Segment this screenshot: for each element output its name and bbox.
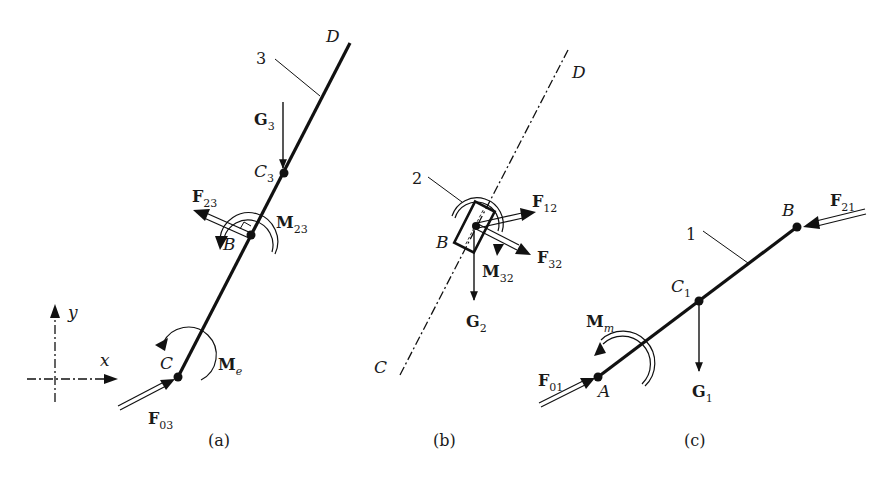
moment-M23-label: M23 [276,213,308,236]
y-axis-arrow-icon [50,304,60,318]
point-B-label: B [781,200,795,220]
caption-b: (b) [433,431,456,450]
point-D-label: D [571,62,586,82]
moment-M32-label: M32 [482,262,514,285]
point-C-label: C [374,357,387,377]
force-F32-label: F32 [537,248,562,271]
right-angle-mark [240,222,251,229]
caption-a: (a) [208,431,230,450]
point-C [174,373,183,382]
force-G2-label: G2 [466,312,487,335]
moment-Me-label: Me [218,355,243,378]
point-D-label: D [325,26,340,46]
leader-line-3 [275,59,320,96]
y-axis-label: y [67,302,78,322]
link-number-1: 1 [686,225,696,244]
x-axis-arrow-icon [104,374,118,384]
force-F23-label: F23 [192,187,217,210]
point-C3 [280,169,289,178]
coordinate-axes: y x [27,302,118,402]
point-C-label: C [160,353,173,373]
point-C3-label: C3 [254,161,274,185]
force-G1-label: G1 [692,382,713,405]
panel-a: y x D 3 G3 C3 B F23 M23 [27,26,350,450]
link-number-3: 3 [256,49,266,68]
force-F21-label: F21 [830,191,855,214]
point-A-label: A [596,381,610,401]
x-axis-label: x [100,350,110,370]
force-F03-label: F03 [148,409,173,432]
force-F32-arrow [476,224,531,255]
force-F12-label: F12 [532,192,557,215]
caption-c: (c) [684,431,705,450]
force-F21-arrow [803,209,866,229]
panel-c: B F21 1 C1 G1 A Mm [538,191,866,450]
force-F03-arrow [118,379,175,410]
link-number-2: 2 [412,169,422,188]
leader-line-1 [703,231,748,263]
force-F01-label: F01 [538,371,563,394]
point-B [793,223,802,232]
free-body-diagrams: y x D 3 G3 C3 B F23 M23 [0,0,891,480]
moment-Mm-label: Mm [586,312,614,335]
force-G3-label: G3 [254,110,275,133]
point-B-label: B [435,232,449,252]
point-C1-label: C1 [671,276,691,300]
force-F12-arrow [477,208,536,228]
leader-line-2 [428,177,462,202]
